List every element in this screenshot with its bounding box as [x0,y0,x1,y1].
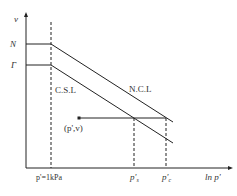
x-tick-ps-label: p's [129,172,139,183]
y-axis-arrow [24,12,28,17]
state-point [78,117,81,120]
x-axis-label: ln p' [205,172,222,182]
x-axis-arrow [228,166,233,170]
x-tick-pc-label: p'c [161,172,171,183]
ps-sub: s [136,177,139,183]
ncl-line [51,44,173,122]
gamma-tick-label: Γ [10,60,17,70]
csl-label: C.S.L [55,85,76,95]
state-point-label: (p',v) [64,123,83,133]
x-tick-ref-label: p'=1kPa [36,173,62,182]
v-lnp-diagram: v N Γ N.C.L C.S.L (p',v) p'=1kPa p's p'c… [0,0,237,196]
pc-sub: c [168,177,171,183]
y-axis-label: v [14,14,18,24]
n-tick-label: N [9,39,17,49]
ncl-label: N.C.L [129,84,152,94]
